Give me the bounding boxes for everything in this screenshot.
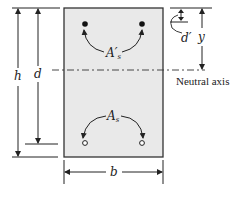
label-h: h — [14, 69, 22, 83]
label-neutral-axis: Neutral axis — [176, 75, 229, 87]
tension-bar-left — [83, 141, 88, 146]
beam-cross-section — [64, 8, 163, 157]
label-b: b — [110, 165, 118, 179]
label-d-prime: d′ — [181, 31, 192, 45]
label-y: y — [197, 30, 205, 44]
label-d: d — [34, 67, 42, 81]
beam-section-diagram: A′s As h d d′ y Neutral axis b — [0, 0, 247, 197]
compression-bar-left — [82, 21, 88, 27]
compression-bar-right — [139, 21, 145, 27]
tension-bar-right — [140, 141, 145, 146]
